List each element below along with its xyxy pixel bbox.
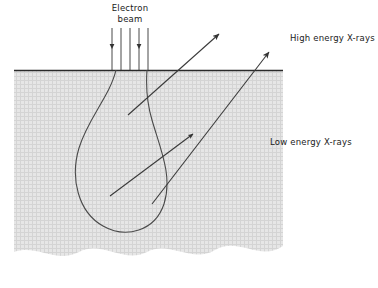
beam-arrowhead-left (110, 44, 115, 49)
label-high-energy-xrays: High energy X-rays (290, 33, 375, 44)
electron-beam-direction-arrowheads (110, 44, 142, 49)
specimen-block (14, 70, 283, 256)
beam-arrowhead-right (137, 44, 142, 49)
figure-canvas: Electron beam High energy X-rays Low ene… (0, 0, 378, 288)
label-electron-beam-line2: beam (99, 14, 161, 25)
label-electron-beam: Electron beam (99, 3, 161, 25)
specimen-fill (14, 70, 283, 256)
label-low-energy-xrays: Low energy X-rays (270, 137, 352, 148)
label-electron-beam-line1: Electron (99, 3, 161, 14)
electron-beam-rays (112, 28, 148, 70)
